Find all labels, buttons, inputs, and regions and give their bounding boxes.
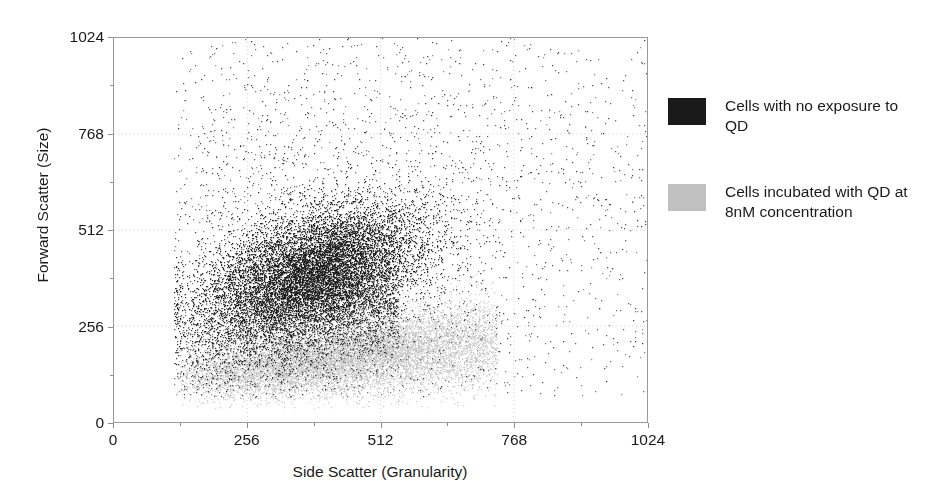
major-tick: [381, 423, 382, 428]
minor-tick: [110, 375, 113, 376]
major-tick: [514, 423, 515, 428]
y-tick-label: 0: [42, 415, 104, 431]
legend-item: Cells incubated with QD at 8nM concentra…: [668, 182, 928, 222]
minor-tick: [581, 423, 582, 426]
x-tick-label: 768: [474, 432, 554, 448]
major-tick: [108, 37, 113, 38]
y-axis-title: Forward Scatter (Size): [34, 80, 52, 330]
minor-tick: [314, 423, 315, 426]
legend-item-label: Cells incubated with QD at 8nM concentra…: [725, 182, 920, 222]
minor-tick: [110, 182, 113, 183]
scatter-points-canvas: [114, 38, 648, 423]
x-tick-label: 512: [341, 432, 421, 448]
minor-tick: [110, 278, 113, 279]
minor-tick: [447, 423, 448, 426]
x-tick-label: 0: [73, 432, 153, 448]
y-tick-label: 1024: [42, 29, 104, 45]
x-tick-label: 256: [207, 432, 287, 448]
x-axis-title: Side Scatter (Granularity): [150, 463, 610, 481]
plot-area: [113, 37, 648, 423]
major-tick: [648, 423, 649, 428]
scatter-plot-figure: 0256512768102402565127681024 Forward Sca…: [0, 0, 935, 501]
legend: Cells with no exposure to QD Cells incub…: [668, 96, 928, 268]
legend-item-label: Cells with no exposure to QD: [725, 96, 920, 136]
major-tick: [108, 230, 113, 231]
minor-tick: [180, 423, 181, 426]
major-tick: [247, 423, 248, 428]
minor-tick: [110, 85, 113, 86]
light-swatch: [668, 184, 706, 211]
major-tick: [108, 134, 113, 135]
major-tick: [113, 423, 114, 428]
x-tick-label: 1024: [608, 432, 688, 448]
dark-swatch: [668, 98, 706, 125]
legend-item: Cells with no exposure to QD: [668, 96, 928, 136]
major-tick: [108, 327, 113, 328]
